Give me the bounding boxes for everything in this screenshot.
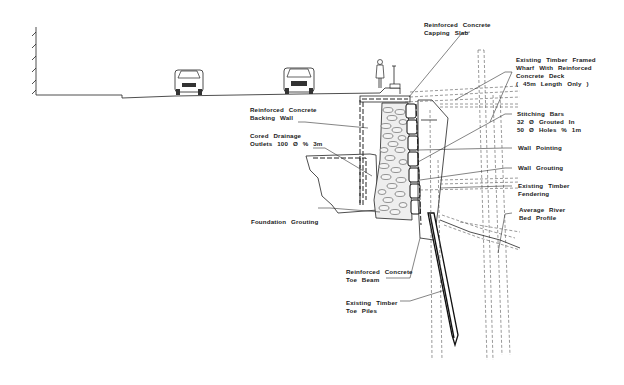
- bollard-icon: [390, 66, 400, 88]
- label-toe-beam: Reinforced Concrete Toe Beam: [346, 268, 413, 284]
- stone-masonry-wall: [374, 103, 412, 220]
- label-capping-slab: Reinforced Concrete Capping Slab: [424, 21, 491, 37]
- foundation-outline: [306, 154, 378, 213]
- label-drainage: Cored Drainage Outlets 100 Ø % 3m: [250, 132, 322, 148]
- pedestrian-icon: [376, 60, 384, 89]
- capping-slab: [360, 96, 410, 102]
- car-left-icon: [175, 70, 203, 95]
- label-wall-pointing: Wall Pointing: [518, 144, 562, 152]
- timber-wharf-structure: [405, 50, 520, 360]
- car-right-icon: [284, 68, 314, 94]
- river-bed-profile: [440, 215, 520, 250]
- label-stitching-bars: Stitching Bars 32 Ø Grouted In 50 Ø Hole…: [517, 110, 581, 134]
- label-river-bed: Average River Bed Profile: [519, 206, 565, 222]
- timber-toe-pile: [428, 213, 458, 345]
- label-timber-fendering: Existing Timber Fendering: [518, 182, 570, 198]
- wharf-cross-section-diagram: Reinforced Concrete Capping Slab Existin…: [0, 0, 624, 385]
- road-surface: [36, 88, 400, 98]
- label-foundation-grouting: Foundation Grouting: [251, 218, 318, 226]
- label-timber-wharf: Existing Timber Framed Wharf With Reinfo…: [516, 56, 596, 88]
- building-wall: [32, 27, 36, 95]
- label-toe-piles: Existing Timber Toe Piles: [346, 299, 398, 315]
- label-backing-wall: Reinforced Concrete Backing Wall: [250, 106, 317, 122]
- label-wall-grouting: Wall Grouting: [518, 164, 563, 172]
